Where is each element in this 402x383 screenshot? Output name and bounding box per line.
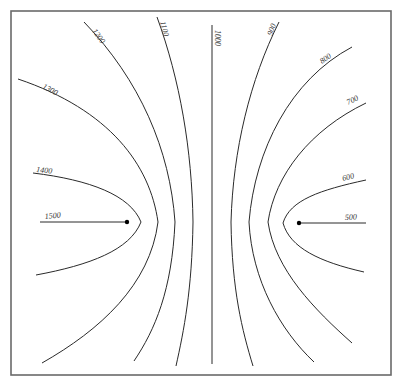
contour-label-500: 500 bbox=[345, 212, 357, 222]
contour-label-700: 700 bbox=[345, 94, 360, 107]
diagram-canvas: 150014001300120011001000900800700600500 bbox=[0, 0, 402, 383]
contour-line-1400 bbox=[33, 173, 141, 275]
contour-label-800: 800 bbox=[318, 51, 333, 65]
contour-labels: 150014001300120011001000900800700600500 bbox=[36, 20, 360, 222]
diagram-frame bbox=[11, 11, 391, 375]
contour-line-900 bbox=[231, 22, 279, 366]
source-points bbox=[125, 220, 301, 225]
contour-lines bbox=[18, 17, 366, 366]
right-source-dot-icon bbox=[297, 221, 301, 225]
contour-label-1000: 1000 bbox=[213, 30, 222, 46]
contour-line-1200 bbox=[84, 22, 175, 361]
contour-line-800 bbox=[249, 47, 352, 362]
contour-label-1100: 1100 bbox=[158, 20, 171, 37]
contour-line-1100 bbox=[157, 17, 193, 366]
contour-label-900: 900 bbox=[265, 22, 278, 36]
contour-label-1400: 1400 bbox=[36, 165, 53, 176]
left-source-dot-icon bbox=[125, 220, 129, 224]
contour-line-1300 bbox=[18, 79, 158, 363]
contour-label-1500: 1500 bbox=[44, 210, 61, 221]
contour-line-600 bbox=[283, 180, 366, 272]
contour-label-600: 600 bbox=[341, 171, 355, 183]
contour-label-1200: 1200 bbox=[90, 27, 107, 45]
contour-diagram: 150014001300120011001000900800700600500 bbox=[0, 0, 402, 383]
